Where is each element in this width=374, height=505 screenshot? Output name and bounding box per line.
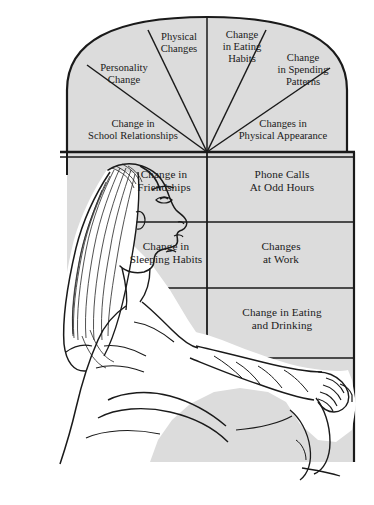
wall-and-figure-illustration [0,0,374,505]
diagram-scene: Personality Change Physical Changes Chan… [0,0,374,505]
